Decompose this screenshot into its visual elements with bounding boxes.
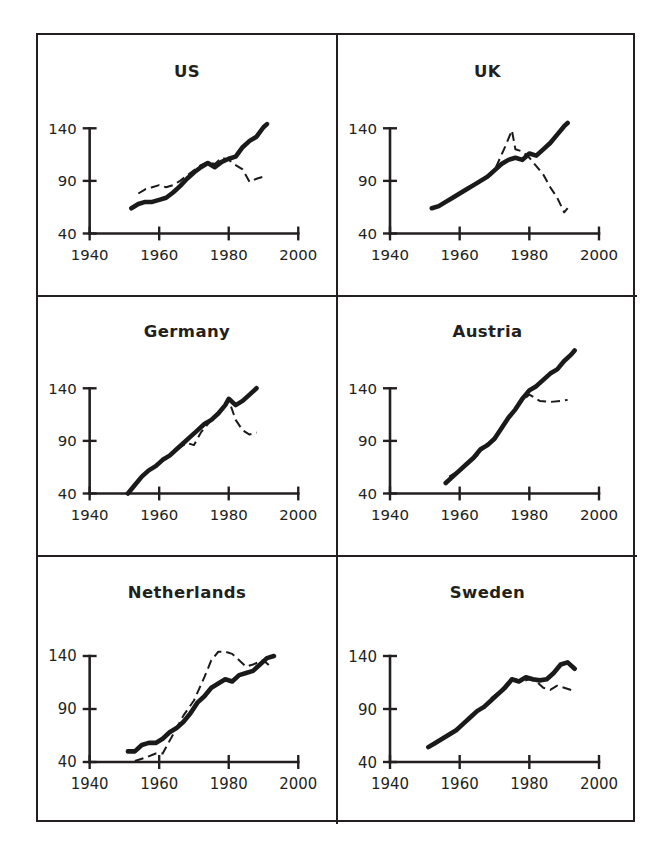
x-tick-label: 1960 bbox=[441, 775, 479, 793]
panel-uk: UK 19401960198020004090140 bbox=[338, 35, 637, 297]
x-tick-label: 1980 bbox=[510, 506, 548, 524]
x-tick-label: 1980 bbox=[510, 246, 548, 264]
x-tick-label: 1960 bbox=[140, 506, 178, 524]
x-tick-label: 1940 bbox=[371, 246, 409, 264]
series-solid-line bbox=[128, 388, 257, 493]
x-tick-label: 1940 bbox=[371, 506, 409, 524]
y-tick-label: 140 bbox=[348, 380, 377, 398]
x-tick-label: 1980 bbox=[210, 775, 248, 793]
x-tick-label: 2000 bbox=[279, 246, 317, 264]
x-tick-label: 1980 bbox=[210, 506, 248, 524]
y-tick-label: 140 bbox=[348, 648, 377, 666]
x-tick-label: 1980 bbox=[210, 246, 248, 264]
y-tick-label: 140 bbox=[48, 380, 76, 398]
x-tick-label: 1960 bbox=[140, 775, 178, 793]
panel-germany: Germany 19401960198020004090140 bbox=[38, 297, 338, 557]
plot-sweden: 19401960198020004090140 bbox=[338, 557, 637, 824]
x-tick-label: 1980 bbox=[510, 775, 548, 793]
plot-germany: 19401960198020004090140 bbox=[38, 297, 336, 555]
y-tick-label: 90 bbox=[358, 432, 377, 450]
plot-area: 19401960198020004090140 bbox=[48, 647, 317, 793]
x-tick-label: 2000 bbox=[580, 506, 618, 524]
x-tick-label: 1940 bbox=[371, 775, 409, 793]
y-tick-label: 40 bbox=[58, 225, 77, 243]
series-solid-line bbox=[131, 124, 267, 208]
x-tick-label: 2000 bbox=[580, 775, 618, 793]
x-tick-label: 1960 bbox=[140, 246, 178, 264]
series-dashed-line bbox=[138, 158, 263, 194]
x-tick-label: 2000 bbox=[279, 775, 317, 793]
x-tick-label: 2000 bbox=[580, 246, 618, 264]
x-tick-label: 1940 bbox=[71, 775, 109, 793]
plot-netherlands: 19401960198020004090140 bbox=[38, 557, 336, 824]
plot-area: 19401960198020004090140 bbox=[348, 648, 618, 794]
plot-austria: 19401960198020004090140 bbox=[338, 297, 637, 555]
x-tick-label: 1960 bbox=[441, 506, 479, 524]
series-solid-line bbox=[128, 656, 274, 751]
panel-netherlands: Netherlands 19401960198020004090140 bbox=[38, 557, 338, 824]
plot-uk: 19401960198020004090140 bbox=[338, 35, 637, 295]
y-tick-label: 40 bbox=[358, 485, 377, 503]
panel-us: US 19401960198020004090140 bbox=[38, 35, 338, 297]
y-tick-label: 40 bbox=[58, 753, 77, 771]
plot-area: 19401960198020004090140 bbox=[48, 380, 317, 525]
panel-grid: US 19401960198020004090140 UK 1940196019… bbox=[36, 33, 635, 822]
x-tick-label: 1940 bbox=[71, 506, 109, 524]
y-tick-label: 140 bbox=[348, 120, 377, 138]
y-tick-label: 140 bbox=[48, 647, 76, 665]
plot-area: 19401960198020004090140 bbox=[48, 120, 317, 265]
plot-area: 19401960198020004090140 bbox=[348, 350, 618, 524]
series-solid-line bbox=[432, 123, 568, 208]
y-tick-label: 90 bbox=[358, 172, 377, 190]
y-tick-label: 90 bbox=[58, 700, 77, 718]
y-tick-label: 40 bbox=[358, 225, 377, 243]
y-tick-label: 90 bbox=[58, 432, 77, 450]
x-tick-label: 2000 bbox=[279, 506, 317, 524]
y-tick-label: 90 bbox=[358, 701, 377, 719]
x-tick-label: 1960 bbox=[441, 246, 479, 264]
y-tick-label: 40 bbox=[58, 485, 77, 503]
x-tick-label: 1940 bbox=[71, 246, 109, 264]
series-solid-line bbox=[428, 662, 574, 747]
plot-area: 19401960198020004090140 bbox=[348, 120, 618, 264]
panel-austria: Austria 19401960198020004090140 bbox=[338, 297, 637, 557]
series-dashed-line bbox=[449, 395, 567, 477]
y-tick-label: 40 bbox=[358, 754, 377, 772]
plot-us: 19401960198020004090140 bbox=[38, 35, 336, 295]
y-tick-label: 90 bbox=[58, 172, 77, 190]
panel-sweden: Sweden 19401960198020004090140 bbox=[338, 557, 637, 824]
series-dashed-line bbox=[491, 679, 571, 698]
figure-root: US 19401960198020004090140 UK 1940196019… bbox=[0, 0, 664, 852]
y-tick-label: 140 bbox=[48, 120, 76, 138]
